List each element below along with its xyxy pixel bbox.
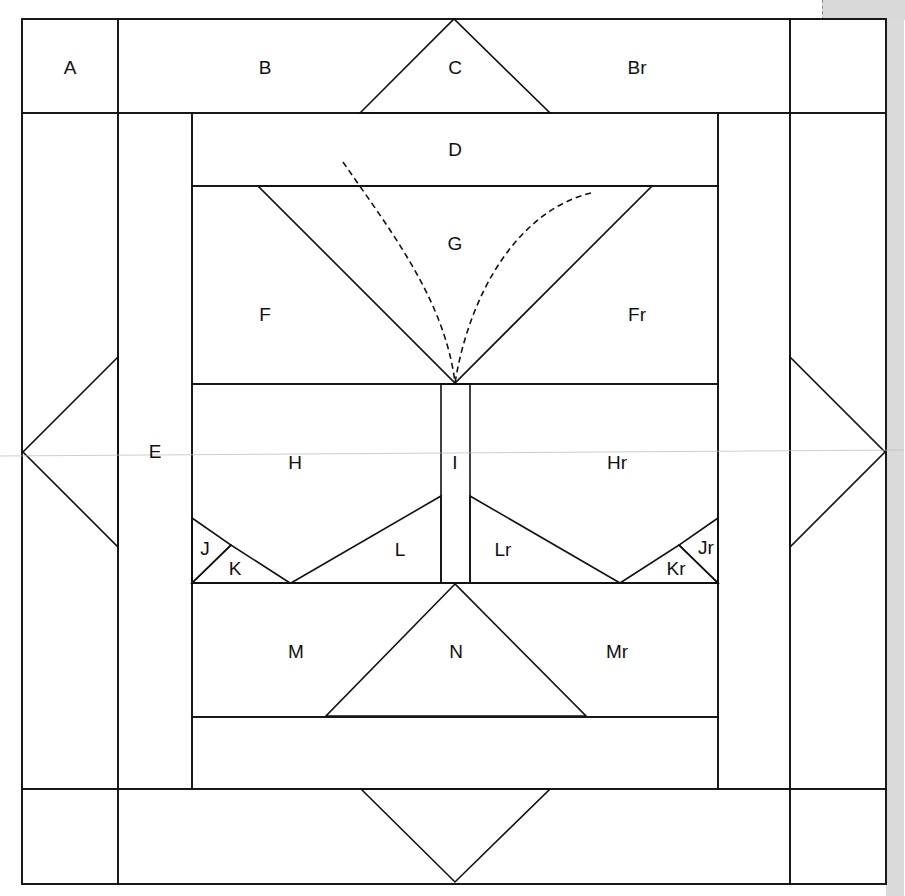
label-i: I [452, 452, 457, 473]
label-br: Br [628, 57, 648, 78]
label-lr: Lr [495, 539, 513, 560]
bottom-border-strip [118, 789, 790, 884]
label-hr: Hr [607, 452, 628, 473]
label-k: K [229, 558, 242, 579]
antenna-right [455, 193, 591, 383]
piece-h-hr [192, 384, 718, 583]
piece-i-body [441, 384, 470, 583]
corner-bottom-left [22, 789, 118, 884]
label-c: C [448, 57, 462, 78]
label-n: N [449, 641, 463, 662]
butterfly-lower [192, 384, 718, 583]
corner-top-right [790, 19, 886, 113]
antenna-left [343, 162, 455, 383]
left-triangle [23, 357, 118, 547]
label-mr: Mr [606, 641, 629, 662]
butterfly-upper [192, 162, 718, 384]
piece-lr [470, 496, 620, 583]
piece-f-fr-background [192, 186, 718, 384]
label-fr: Fr [628, 304, 647, 325]
label-g: G [448, 233, 463, 254]
label-kr: Kr [667, 558, 687, 579]
label-jr: Jr [698, 537, 715, 558]
label-j: J [200, 538, 210, 559]
corner-bottom-right [790, 789, 886, 884]
label-h: H [288, 452, 302, 473]
right-triangle [790, 357, 885, 547]
piece-l [291, 496, 441, 583]
label-b: B [259, 57, 272, 78]
label-f: F [259, 304, 271, 325]
label-m: M [288, 641, 304, 662]
label-e: E [149, 441, 162, 462]
label-a: A [64, 57, 77, 78]
bottom-sashing [192, 717, 718, 789]
left-border-strip [22, 113, 118, 789]
bottom-triangle [361, 789, 550, 882]
piece-labels: A B C Br D E G F Fr H I Hr J K L Lr Kr J… [64, 57, 715, 662]
label-d: D [448, 139, 462, 160]
label-l: L [395, 539, 406, 560]
piece-g [258, 186, 652, 383]
